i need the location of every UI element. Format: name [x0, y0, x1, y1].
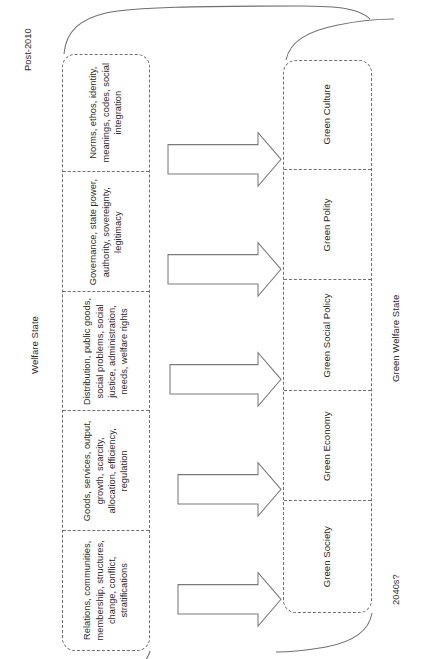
transition-arrow-polity — [168, 243, 281, 296]
welfare-state-brace-tail — [118, 651, 150, 659]
diagram-canvas: Post-2010 2040s? Welfare State Green Wel… — [0, 0, 424, 659]
transition-arrow-culture — [168, 133, 281, 186]
diagram-stage: Post-2010 2040s? Welfare State Green Wel… — [0, 0, 424, 659]
welfare-state-brace — [64, 6, 370, 54]
diagram-rotor: Post-2010 2040s? Welfare State Green Wel… — [0, 0, 424, 659]
diagram-vector-layer — [0, 0, 424, 659]
green-welfare-state-brace-right — [286, 19, 394, 60]
transition-arrow-society — [178, 573, 281, 626]
transition-arrow-economy — [178, 463, 281, 516]
green-welfare-state-brace-left — [276, 613, 372, 652]
transition-arrow-social-policy — [170, 353, 281, 406]
